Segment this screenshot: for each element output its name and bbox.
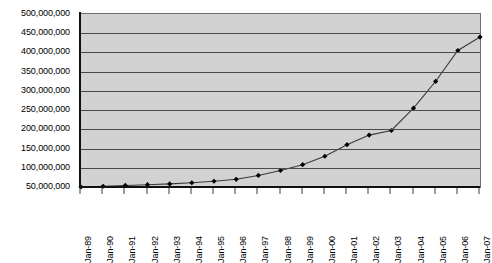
x-axis-tick-label: Jan-02	[372, 236, 381, 263]
x-axis-tick-label: Jan-04	[417, 236, 426, 263]
y-axis-line	[79, 12, 81, 188]
x-axis-tick-label: Jan-99	[306, 236, 315, 263]
data-point-marker	[256, 173, 261, 178]
x-axis-tick-mark	[257, 188, 258, 194]
data-point-marker	[367, 133, 372, 138]
x-axis-tick-mark	[80, 188, 81, 194]
x-axis-tick-mark	[412, 188, 413, 194]
y-axis-tick-label: 200,000,000	[21, 124, 70, 133]
data-point-marker	[211, 179, 216, 184]
x-axis-tick-mark	[102, 188, 103, 194]
x-axis-tick-label: Jan-92	[151, 236, 160, 263]
x-axis-tick-mark	[235, 188, 236, 194]
gridline	[81, 33, 480, 34]
x-axis-tick-label: Jan-07	[483, 236, 492, 263]
gridline	[81, 129, 480, 130]
series-line	[81, 37, 480, 187]
x-axis-tick-label: Jan-97	[261, 236, 270, 263]
x-axis-tick-label: Jan-95	[217, 236, 226, 263]
x-axis-tick-label: Jan-96	[239, 236, 248, 263]
x-axis-tick-mark	[346, 188, 347, 194]
plot-area	[80, 13, 481, 188]
y-axis-tick-label: 300,000,000	[21, 85, 70, 94]
x-axis-tick-mark	[279, 188, 280, 194]
data-point-marker	[300, 162, 305, 167]
x-axis-tick-mark	[124, 188, 125, 194]
x-axis-tick-label-group: Jan-89Jan-90Jan-91Jan-92Jan-93Jan-94Jan-…	[80, 195, 479, 238]
x-axis-tick-label: Jan-90	[106, 236, 115, 263]
x-axis-tick-mark	[323, 188, 324, 194]
y-axis-tick-label: 450,000,000	[21, 28, 70, 37]
x-axis-tick-label: Jan-03	[394, 236, 403, 263]
gridline	[81, 91, 480, 92]
x-axis-tick-mark	[434, 188, 435, 194]
gridline	[81, 149, 480, 150]
gridline	[81, 168, 480, 169]
data-point-marker	[189, 180, 194, 185]
data-series-svg	[81, 14, 480, 187]
y-axis-tick-label: 50,000,000	[26, 182, 70, 191]
x-axis-tick-label: Jan-93	[173, 236, 182, 263]
y-axis-tick-label: 350,000,000	[21, 66, 70, 75]
x-axis-tick-mark	[456, 188, 457, 194]
x-axis-tick-mark	[390, 188, 391, 194]
x-axis-tick-label: Jan-06	[461, 236, 470, 263]
x-axis-tick-mark	[168, 188, 169, 194]
data-point-marker	[477, 34, 482, 39]
data-point-marker	[322, 154, 327, 159]
x-axis-tick-label: Jan-94	[195, 236, 204, 263]
y-axis-tick-label: 400,000,000	[21, 47, 70, 56]
x-axis-tick-mark	[213, 188, 214, 194]
x-axis-tick-label: Jan-91	[128, 236, 137, 263]
data-point-marker	[344, 142, 349, 147]
x-axis-tick-mark	[479, 188, 480, 194]
x-axis-tick-mark	[190, 188, 191, 194]
x-axis-tick-label: Jan-01	[350, 236, 359, 263]
x-axis-tick-mark-group	[80, 188, 479, 194]
y-axis-tick-label: 500,000,000	[21, 9, 70, 18]
y-axis-tick-label-group: 500,000,000450,000,000400,000,000350,000…	[0, 0, 78, 238]
x-axis-tick-label: Jan-05	[439, 236, 448, 263]
y-axis-tick-label: 150,000,000	[21, 143, 70, 152]
x-axis-tick-label: Jan-98	[284, 236, 293, 263]
gridline	[81, 110, 480, 111]
x-axis-tick-mark	[301, 188, 302, 194]
data-point-marker	[234, 177, 239, 182]
gridline	[81, 72, 480, 73]
x-axis-tick-mark	[368, 188, 369, 194]
x-axis-tick-mark	[146, 188, 147, 194]
gridline	[81, 52, 480, 53]
y-axis-tick-label: 100,000,000	[21, 162, 70, 171]
y-axis-tick-label: 250,000,000	[21, 105, 70, 114]
x-axis-tick-label: Jan-89	[84, 236, 93, 263]
x-axis-tick-label: Jan-00	[328, 236, 337, 263]
